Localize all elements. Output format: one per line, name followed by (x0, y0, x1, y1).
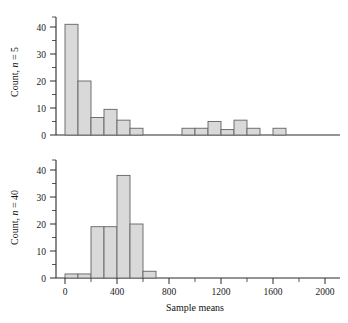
figure-canvas: Count, n = 5 0 10 20 30 40 (0, 0, 348, 323)
histogram-figure: Count, n = 5 0 10 20 30 40 (0, 0, 348, 323)
x-axis-minor-ticks (91, 278, 299, 282)
bar-top-4 (117, 120, 130, 135)
bar-bottom-4 (117, 175, 130, 278)
bottom-bars (65, 175, 156, 278)
panel-bottom: Count, n = 40 0 10 20 30 40 (9, 160, 340, 313)
bar-top-10 (234, 120, 247, 135)
bar-top-6 (182, 128, 195, 135)
top-ytick-label-10: 10 (37, 104, 47, 114)
bar-top-5 (130, 128, 143, 135)
top-y-axis-label: Count, n = 5 (9, 47, 20, 97)
bar-bottom-0 (65, 274, 78, 278)
bottom-ytick-label-0: 0 (41, 274, 46, 284)
top-bars (65, 24, 286, 135)
bar-top-9 (221, 130, 234, 135)
top-ytick-label-40: 40 (37, 23, 47, 33)
bottom-ytick-label-40: 40 (37, 166, 47, 176)
xtick-label-1200: 1200 (212, 287, 231, 297)
top-ytick-label-30: 30 (37, 50, 47, 60)
panel-top: Count, n = 5 0 10 20 30 40 (9, 17, 340, 141)
x-axis-ticks: 0 400 800 1200 1600 2000 (63, 278, 335, 297)
bar-bottom-2 (91, 227, 104, 278)
bar-top-8 (208, 122, 221, 136)
bottom-ylabel-prefix: Count, (9, 216, 20, 245)
bar-top-0 (65, 24, 78, 135)
bottom-ytick-label-10: 10 (37, 247, 47, 257)
xtick-label-0: 0 (63, 287, 68, 297)
bottom-y-axis-label: Count, n = 40 (9, 190, 20, 245)
bar-top-11 (247, 128, 260, 135)
bottom-ylabel-suffix: = 40 (9, 190, 20, 211)
xtick-label-1600: 1600 (264, 287, 283, 297)
top-ylabel-suffix: = 5 (9, 47, 20, 63)
bar-top-1 (78, 81, 91, 135)
bar-bottom-1 (78, 274, 91, 278)
top-ytick-label-20: 20 (37, 77, 47, 87)
bar-bottom-3 (104, 227, 117, 278)
top-ytick-label-0: 0 (41, 131, 46, 141)
bar-top-12 (273, 128, 286, 135)
xtick-label-800: 800 (162, 287, 177, 297)
bottom-ytick-label-30: 30 (37, 193, 47, 203)
bar-bottom-5 (130, 224, 143, 278)
top-y-minor-ticks (52, 17, 56, 122)
xtick-label-2000: 2000 (316, 287, 335, 297)
bottom-y-minor-ticks (52, 160, 56, 265)
bottom-ytick-label-20: 20 (37, 220, 47, 230)
bar-top-7 (195, 128, 208, 135)
x-axis-title: Sample means (166, 302, 224, 313)
bar-top-3 (104, 109, 117, 135)
top-ylabel-prefix: Count, (9, 68, 20, 97)
bar-bottom-6 (143, 271, 156, 278)
bar-top-2 (91, 117, 104, 135)
xtick-label-400: 400 (110, 287, 125, 297)
